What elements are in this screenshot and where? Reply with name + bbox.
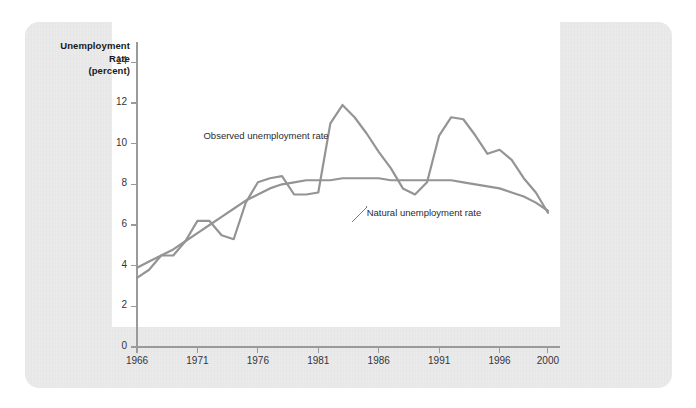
y-tick-label: 10: [101, 137, 127, 148]
x-tick-label: 1976: [236, 355, 280, 366]
natural-unemployment-line: [137, 178, 548, 267]
y-axis-title-line-3: (percent): [26, 65, 130, 78]
x-tick-label: 1971: [175, 355, 219, 366]
observed-unemployment-line: [137, 105, 548, 278]
x-tick-label: 1986: [357, 355, 401, 366]
x-tick-label: 1966: [115, 355, 159, 366]
x-tick-label: 1991: [417, 355, 461, 366]
y-tick-label: 14: [101, 55, 127, 66]
series-lines-group: [137, 105, 548, 278]
annotation-leader-line: [353, 206, 368, 222]
axis-ticks-group: [131, 62, 548, 353]
x-tick-label: 1996: [478, 355, 522, 366]
y-tick-label: 8: [101, 177, 127, 188]
y-tick-label: 12: [101, 96, 127, 107]
x-tick-label: 1981: [296, 355, 340, 366]
y-tick-label: 6: [101, 218, 127, 229]
y-tick-label: 2: [101, 299, 127, 310]
annotation-leader-lines: [353, 206, 368, 222]
axes-group: [137, 42, 560, 347]
y-tick-label: 4: [101, 259, 127, 270]
y-tick-label: 0: [101, 340, 127, 351]
x-tick-label: 2000: [526, 355, 570, 366]
unemployment-rate-chart: Unemployment Rate (percent) 02468101214 …: [0, 0, 696, 408]
annotation-observed: Observed unemployment rate: [203, 130, 328, 141]
y-axis-title-line-1: Unemployment: [26, 40, 130, 53]
annotation-natural: Natural unemployment rate: [367, 207, 482, 218]
